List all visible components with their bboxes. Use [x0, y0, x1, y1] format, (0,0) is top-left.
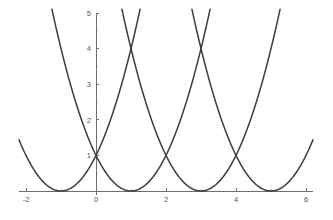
y-tick-label: 4 [87, 44, 91, 53]
x-tick-label: 0 [94, 195, 98, 204]
plot-canvas: -2024612345 [0, 0, 333, 220]
y-tick-label: 1 [87, 151, 91, 160]
parabola-plot: -2024612345 [0, 0, 333, 220]
x-tick-label: 6 [304, 195, 308, 204]
x-tick-label: 4 [234, 195, 238, 204]
x-tick-label: 2 [164, 195, 168, 204]
y-tick-label: 5 [87, 9, 91, 18]
x-tick-label: -2 [23, 195, 30, 204]
y-tick-label: 2 [87, 116, 91, 125]
y-tick-label: 3 [87, 80, 91, 89]
